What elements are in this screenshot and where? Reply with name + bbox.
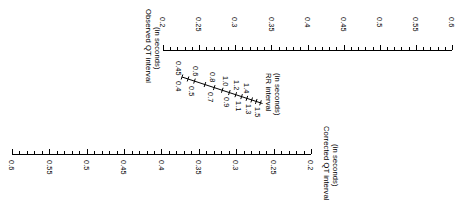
corrected-qt-tick-0.35: 0.35 (194, 160, 202, 175)
rr-interval-tick-0.8: 0.8 (208, 72, 216, 83)
rr-interval-tick-0.45: 0.45 (174, 61, 182, 76)
rr-interval-tick-1.3: 1.3 (244, 104, 252, 115)
rr-interval-tick-0.7: 0.7 (207, 92, 215, 103)
corrected-qt-tick-0.4: 0.4 (157, 160, 165, 171)
nomogram-figure: Observed QT interval (in seconds) RR int… (0, 0, 463, 205)
rr-interval-tick-1.2: 1.2 (233, 80, 241, 91)
corrected-qt-tick-0.25: 0.25 (269, 160, 277, 175)
observed-qt-tick-0.3: 0.3 (231, 17, 239, 28)
rr-interval-tick-0.4: 0.4 (174, 81, 182, 92)
observed-qt-tick-0.55: 0.55 (411, 17, 419, 32)
observed-qt-tick-0.2: 0.2 (158, 17, 166, 28)
corrected-qt-tick-0.5: 0.5 (82, 160, 90, 171)
observed-qt-tick-0.4: 0.4 (303, 17, 311, 28)
corrected-qt-tick-0.6: 0.6 (7, 160, 15, 171)
corrected-qt-tick-0.55: 0.55 (45, 160, 53, 175)
corrected-qt-tick-0.2: 0.2 (306, 160, 314, 171)
corrected-qt-tick-0.3: 0.3 (232, 160, 240, 171)
rr-interval-tick-1.5: 1.5 (253, 107, 261, 118)
observed-qt-tick-0.25: 0.25 (195, 17, 203, 32)
rr-interval-tick-1.4: 1.4 (242, 83, 250, 94)
rr-interval-tick-0.9: 0.9 (222, 97, 230, 108)
rr-interval-tick-1.0: 1.0 (222, 76, 230, 87)
observed-qt-tick-0.45: 0.45 (339, 17, 347, 32)
corrected-qt-tick-0.45: 0.45 (120, 160, 128, 175)
corrected-qt-axis-title: Corrected QT interval (322, 126, 330, 201)
rr-interval-tick-1.1: 1.1 (234, 101, 242, 112)
corrected-qt-axis-units: (in seconds) (331, 144, 339, 187)
observed-qt-tick-0.5: 0.5 (375, 17, 383, 28)
observed-qt-tick-0.35: 0.35 (267, 17, 275, 32)
corrected-qt-axis-graphic (0, 0, 463, 205)
rr-interval-tick-0.5: 0.5 (187, 86, 195, 97)
observed-qt-tick-0.6: 0.6 (447, 17, 455, 28)
rr-interval-tick-0.6: 0.6 (191, 66, 199, 77)
